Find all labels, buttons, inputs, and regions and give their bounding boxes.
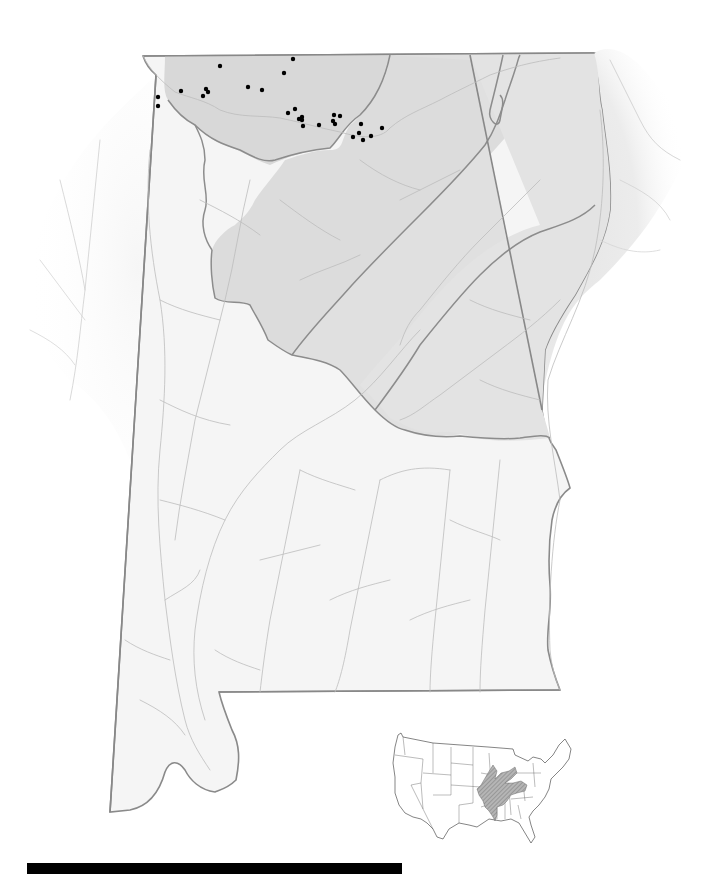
occurrence-point xyxy=(291,57,295,61)
occurrence-point xyxy=(260,88,264,92)
occurrence-point xyxy=(333,122,337,126)
occurrence-point xyxy=(156,95,160,99)
occurrence-point xyxy=(282,71,286,75)
occurrence-point xyxy=(286,111,290,115)
occurrence-point xyxy=(369,134,373,138)
occurrence-point xyxy=(359,122,363,126)
occurrence-point xyxy=(246,85,250,89)
occurrence-point xyxy=(380,126,384,130)
occurrence-point xyxy=(300,118,304,122)
scale-bar xyxy=(27,863,402,874)
occurrence-point xyxy=(293,107,297,111)
occurrence-point xyxy=(317,123,321,127)
occurrence-point xyxy=(338,114,342,118)
occurrence-point xyxy=(201,94,205,98)
occurrence-point xyxy=(301,124,305,128)
occurrence-point xyxy=(179,89,183,93)
occurrence-point xyxy=(206,90,210,94)
occurrence-point xyxy=(156,104,160,108)
occurrence-point xyxy=(361,138,365,142)
inset-us-map xyxy=(393,733,571,843)
occurrence-point xyxy=(332,113,336,117)
occurrence-point xyxy=(357,131,361,135)
occurrence-point xyxy=(218,64,222,68)
occurrence-point xyxy=(351,135,355,139)
range-map xyxy=(0,0,701,874)
